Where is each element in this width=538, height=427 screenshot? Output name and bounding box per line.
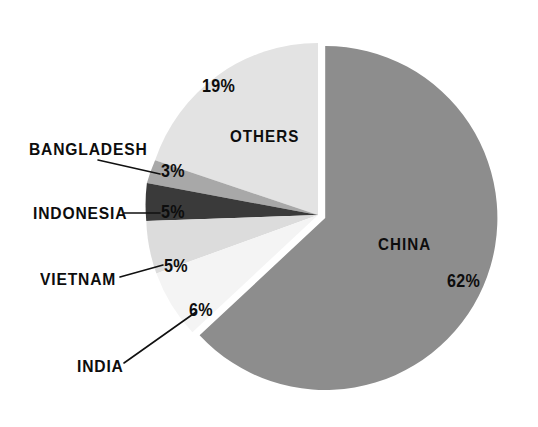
value-label-bangladesh: 3% bbox=[161, 163, 185, 181]
pie-chart-figure: 19% OTHERS BANGLADESH 3% INDONESIA 5% VI… bbox=[0, 0, 538, 427]
category-label-indonesia: INDONESIA bbox=[33, 205, 127, 222]
leader-line-india bbox=[124, 312, 196, 363]
value-label-vietnam: 5% bbox=[164, 258, 188, 276]
leader-line-bangladesh bbox=[98, 160, 160, 174]
category-label-bangladesh: BANGLADESH bbox=[29, 141, 148, 158]
value-label-india: 6% bbox=[189, 302, 213, 320]
value-label-china: 62% bbox=[447, 273, 480, 291]
category-label-vietnam: VIETNAM bbox=[40, 271, 116, 288]
category-label-others: OTHERS bbox=[230, 128, 299, 145]
value-label-indonesia: 5% bbox=[161, 204, 185, 222]
category-label-china: CHINA bbox=[378, 236, 431, 253]
category-label-india: INDIA bbox=[77, 358, 124, 375]
value-label-others: 19% bbox=[202, 78, 235, 96]
